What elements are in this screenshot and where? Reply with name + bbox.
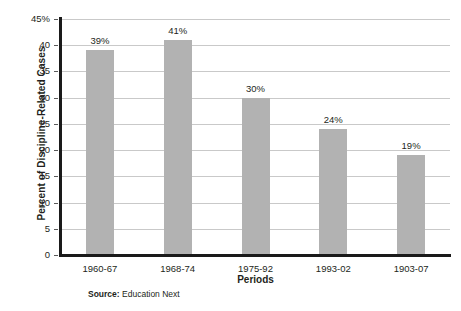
x-tick-label: 1968-74 xyxy=(138,263,218,274)
y-tick-mark xyxy=(54,45,58,46)
x-tick-label: 1975-92 xyxy=(216,263,296,274)
plot-area xyxy=(61,19,450,255)
y-tick-label: 35 xyxy=(14,66,50,76)
bar xyxy=(397,155,425,255)
x-tick-label: 1993-02 xyxy=(293,263,373,274)
y-tick-label: 15 xyxy=(14,171,50,181)
gridline xyxy=(61,71,450,72)
y-tick-label: 45% xyxy=(14,14,50,24)
y-axis-line xyxy=(59,17,62,257)
y-tick-mark xyxy=(54,176,58,177)
bar xyxy=(164,40,192,255)
x-axis-title: Periods xyxy=(61,274,450,285)
bar-value-label: 41% xyxy=(148,26,208,36)
bar xyxy=(242,98,270,255)
y-tick-mark xyxy=(54,229,58,230)
y-tick-mark xyxy=(54,124,58,125)
source-text: Education Next xyxy=(122,289,180,299)
y-tick-mark xyxy=(54,19,58,20)
bar-chart: Percent of Discipline-Related Cases 0510… xyxy=(0,0,461,311)
y-tick-mark xyxy=(54,71,58,72)
bar-value-label: 19% xyxy=(381,141,441,151)
y-tick-mark xyxy=(54,98,58,99)
source-note: Source: Education Next xyxy=(88,289,180,299)
bar-value-label: 24% xyxy=(303,115,363,125)
y-tick-mark xyxy=(54,203,58,204)
y-tick-mark xyxy=(54,150,58,151)
gridline xyxy=(61,19,450,20)
y-tick-label: 0 xyxy=(14,250,50,260)
source-label: Source: xyxy=(88,289,120,299)
bar-value-label: 30% xyxy=(226,84,286,94)
bar-value-label: 39% xyxy=(70,36,130,46)
y-tick-label: 20 xyxy=(14,145,50,155)
y-tick-mark xyxy=(54,255,58,256)
x-tick-label: 1960-67 xyxy=(60,263,140,274)
x-tick-label: 1903-07 xyxy=(371,263,451,274)
y-tick-label: 10 xyxy=(14,198,50,208)
bar xyxy=(86,50,114,255)
y-tick-label: 40 xyxy=(14,40,50,50)
y-tick-label: 25 xyxy=(14,119,50,129)
y-tick-label: 30 xyxy=(14,93,50,103)
x-axis-line xyxy=(59,254,451,257)
y-tick-label: 5 xyxy=(14,224,50,234)
bar xyxy=(319,129,347,255)
